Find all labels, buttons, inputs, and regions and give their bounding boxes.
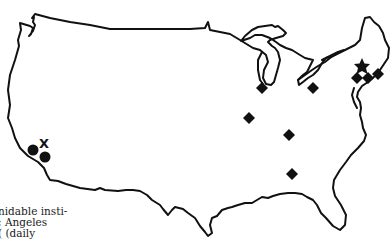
us-border-outline <box>8 14 389 236</box>
diamond-marker <box>286 168 298 180</box>
circle-marker <box>40 152 51 163</box>
circle-marker <box>28 145 39 156</box>
lake-ontario-outline <box>322 50 344 60</box>
lake-erie-outline <box>298 55 335 80</box>
chesapeake-bay-outline <box>352 88 357 108</box>
diamond-marker <box>243 112 255 124</box>
star-marker <box>354 58 370 74</box>
lake-michigan-outline <box>258 52 263 84</box>
diamond-marker <box>351 72 363 84</box>
us-map: X <box>0 0 391 239</box>
caption-text: nidable insti- ; Angeles ( (daily <box>0 206 67 239</box>
caption-line: ( (daily <box>0 228 67 239</box>
diamond-marker <box>283 129 295 141</box>
x-marker: X <box>39 136 49 151</box>
diamond-marker <box>307 82 319 94</box>
